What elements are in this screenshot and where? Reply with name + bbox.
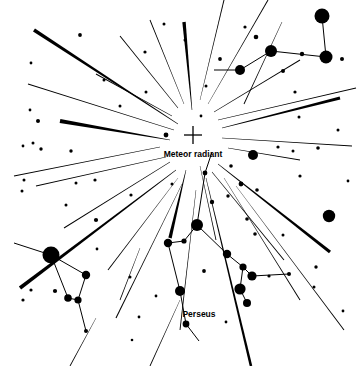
star-58 [129, 193, 132, 196]
star-46 [53, 289, 57, 293]
star-24 [223, 250, 231, 258]
star-68 [184, 39, 187, 42]
star-28 [164, 239, 172, 247]
star-72 [143, 50, 146, 53]
star-22 [247, 271, 256, 280]
star-39 [225, 321, 228, 324]
star-50 [129, 276, 132, 279]
star-62 [21, 190, 24, 193]
star-83 [131, 339, 134, 342]
star-4 [300, 52, 304, 56]
star-10 [293, 90, 296, 93]
star-47 [84, 329, 88, 333]
star-20 [267, 274, 270, 277]
star-78 [30, 62, 33, 65]
star-56 [93, 178, 96, 181]
star-30 [175, 286, 185, 296]
star-53 [36, 119, 40, 123]
star-55 [69, 149, 72, 152]
star-26 [234, 283, 245, 294]
star-82 [347, 180, 350, 183]
perseus-label: Perseus [182, 309, 215, 319]
star-0 [315, 9, 330, 24]
star-35 [229, 164, 233, 168]
star-chart: Meteor radiantPerseus [0, 0, 357, 366]
star-34 [255, 188, 259, 192]
star-32 [210, 200, 214, 204]
star-23 [191, 219, 203, 231]
star-1 [320, 51, 333, 64]
star-76 [171, 183, 174, 186]
star-2 [265, 45, 277, 57]
star-54 [39, 147, 42, 150]
star-14 [298, 174, 301, 177]
star-44 [64, 294, 72, 302]
star-16 [282, 234, 285, 237]
star-71 [200, 115, 203, 118]
star-13 [337, 129, 340, 132]
star-52 [164, 133, 169, 138]
star-70 [205, 85, 208, 88]
sky-canvas: Meteor radiantPerseus [0, 0, 357, 366]
star-66 [78, 33, 82, 37]
star-9 [243, 25, 246, 28]
star-73 [119, 105, 122, 108]
star-7 [340, 57, 344, 61]
star-65 [22, 145, 25, 148]
star-64 [32, 142, 35, 145]
meteor-radiant-label: Meteor radiant [164, 149, 223, 159]
star-37 [245, 217, 249, 221]
star-49 [21, 298, 24, 301]
star-59 [96, 248, 99, 251]
star-25 [239, 263, 246, 270]
star-21 [287, 272, 291, 276]
star-17 [314, 265, 317, 268]
star-38 [202, 269, 206, 273]
star-12 [316, 146, 320, 150]
star-8 [218, 57, 222, 61]
star-19 [342, 310, 345, 313]
star-67 [145, 91, 148, 94]
star-40 [203, 171, 208, 176]
star-81 [292, 150, 295, 153]
star-63 [29, 109, 32, 112]
star-45 [74, 296, 81, 303]
star-27 [243, 299, 251, 307]
star-6 [254, 35, 259, 40]
star-3 [235, 65, 245, 75]
star-60 [75, 182, 78, 185]
star-15 [253, 232, 257, 236]
star-31 [183, 321, 190, 328]
star-69 [163, 23, 166, 26]
star-36 [226, 194, 229, 197]
star-79 [298, 116, 301, 119]
star-77 [155, 295, 158, 298]
star-11 [323, 210, 335, 222]
star-29 [181, 238, 186, 243]
star-80 [276, 145, 279, 148]
star-51 [138, 316, 141, 319]
star-57 [94, 218, 98, 222]
star-74 [103, 79, 106, 82]
star-48 [29, 288, 32, 291]
star-33 [239, 182, 244, 187]
star-41 [248, 150, 258, 160]
star-43 [82, 271, 90, 279]
star-61 [23, 179, 26, 182]
star-75 [65, 204, 68, 207]
star-18 [313, 286, 316, 289]
star-42 [43, 247, 60, 264]
star-5 [281, 69, 285, 73]
